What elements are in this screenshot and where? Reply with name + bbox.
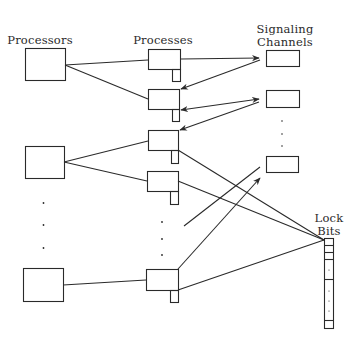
process-signaling-diagram: Processors Processes Signaling Channels … xyxy=(0,0,359,343)
processor-box-1 xyxy=(26,49,66,81)
signaling-channel-n xyxy=(267,157,299,173)
lock-bits-column xyxy=(325,239,334,329)
diagram-canvas xyxy=(0,0,359,343)
header-processes: Processes xyxy=(128,34,198,46)
arrow-channel2-process3 xyxy=(180,102,259,130)
arrow-process1-channel1 xyxy=(181,58,259,59)
edge-processor1-process1 xyxy=(65,60,148,65)
arrow-channel1-process2 xyxy=(181,60,260,89)
processor-box-2 xyxy=(26,147,65,179)
edge-process3-lockbits xyxy=(178,150,324,240)
edge-processn-lockbits xyxy=(178,240,324,290)
edge-process4-lockbits xyxy=(178,181,324,240)
header-signaling-line2: Channels xyxy=(250,36,320,48)
processor-box-n xyxy=(24,269,64,302)
process-3 xyxy=(149,131,179,164)
header-lock-line1: Lock xyxy=(309,212,349,224)
header-signaling-line1: Signaling xyxy=(250,23,320,35)
arrow-processn-channeln xyxy=(178,178,260,269)
header-processors: Processors xyxy=(5,34,75,46)
process-n xyxy=(147,270,179,303)
arrow-process2-channel2 xyxy=(181,99,259,110)
edge-processor2-process3 xyxy=(64,141,148,162)
processors-ellipsis xyxy=(43,202,45,249)
signaling-channel-1 xyxy=(267,51,300,67)
channels-ellipsis xyxy=(281,120,283,147)
signaling-channel-2 xyxy=(267,91,300,108)
edge-processorn-processn xyxy=(63,280,146,285)
edge-processor1-process2 xyxy=(65,65,148,99)
process-4 xyxy=(148,172,179,205)
process-2 xyxy=(149,90,180,122)
lockbits-ellipsis xyxy=(328,269,329,311)
edge-processor2-process4 xyxy=(64,162,147,181)
processes-ellipsis xyxy=(161,221,163,256)
process-1 xyxy=(149,50,181,82)
header-lock-line2: Bits xyxy=(309,225,349,237)
edge-ellipsis-channeln xyxy=(184,167,260,226)
